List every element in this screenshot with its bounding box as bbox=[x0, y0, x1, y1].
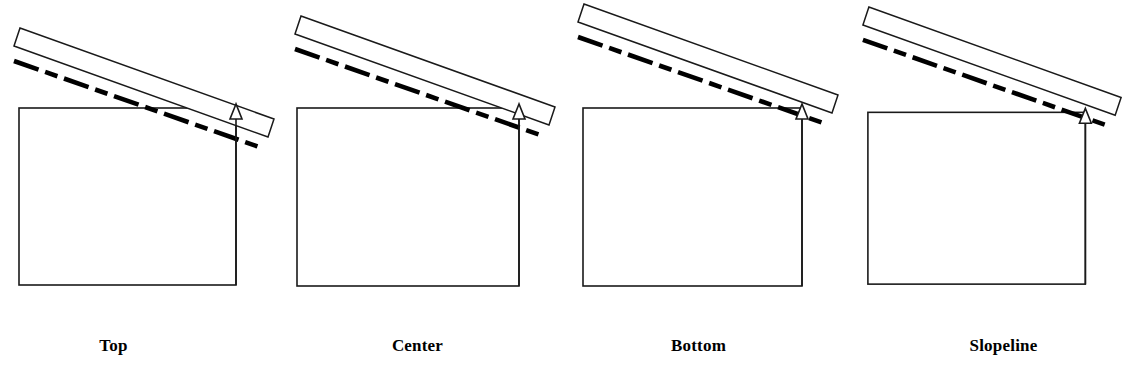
wall-outline-slopeline bbox=[868, 112, 1085, 284]
wall-rectangle bbox=[297, 108, 519, 286]
roof-band bbox=[863, 7, 1121, 115]
panel-slopeline: Slopeline bbox=[853, 0, 1138, 389]
alignment-marker-top bbox=[230, 104, 242, 285]
roof-band bbox=[578, 4, 838, 113]
wall-rectangle bbox=[868, 112, 1085, 284]
alignment-marker-slopeline bbox=[1079, 108, 1091, 284]
panel-center: Center bbox=[281, 0, 566, 389]
alignment-marker-center bbox=[513, 104, 525, 286]
band-outline-slopeline bbox=[863, 7, 1121, 115]
wall-outline-top bbox=[19, 108, 236, 285]
panel-label-slopeline: Slopeline bbox=[853, 336, 1138, 356]
wall-outline-bottom bbox=[583, 108, 802, 286]
panel-label-top: Top bbox=[0, 336, 285, 356]
panel-center-drawing bbox=[281, 0, 566, 320]
alignment-marker-bottom bbox=[796, 104, 808, 286]
panel-slopeline-drawing bbox=[853, 0, 1138, 320]
panel-top-drawing bbox=[0, 0, 285, 320]
panel-label-center: Center bbox=[281, 336, 566, 356]
wall-outline-center bbox=[297, 108, 519, 286]
band-outline-bottom bbox=[578, 4, 838, 113]
panel-bottom-drawing bbox=[567, 0, 852, 320]
panel-label-bottom: Bottom bbox=[567, 336, 852, 356]
wall-rectangle bbox=[583, 108, 802, 286]
band-outline-top bbox=[14, 28, 274, 137]
panel-top: Top bbox=[0, 0, 285, 389]
triangle-arrow-icon bbox=[796, 104, 808, 119]
panel-bottom: Bottom bbox=[567, 0, 852, 389]
slope-justification-diagram: Top Center bbox=[0, 0, 1140, 389]
roof-band bbox=[14, 28, 274, 137]
wall-rectangle bbox=[19, 108, 236, 285]
